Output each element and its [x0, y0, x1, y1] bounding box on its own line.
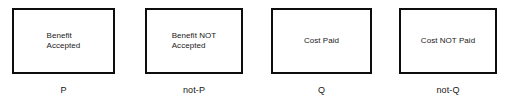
- node-box-p: Benefit Accepted: [12, 8, 115, 74]
- node-box-label-p: Benefit Accepted: [47, 31, 81, 52]
- node-box-not-q: Cost NOT Paid: [399, 8, 497, 74]
- node-caption-q: Q: [271, 85, 372, 96]
- node-box-not-p: Benefit NOT Accepted: [145, 8, 243, 74]
- node-box-label-q: Cost Paid: [304, 36, 339, 47]
- node-caption-p: P: [12, 85, 115, 96]
- logic-box-diagram: Benefit AcceptedPBenefit NOT Acceptednot…: [0, 0, 511, 103]
- node-caption-not-q: not-Q: [399, 85, 497, 96]
- node-box-label-not-q: Cost NOT Paid: [421, 36, 475, 47]
- node-caption-not-p: not-P: [145, 85, 243, 96]
- node-box-label-not-p: Benefit NOT Accepted: [172, 31, 217, 52]
- node-box-q: Cost Paid: [271, 8, 372, 74]
